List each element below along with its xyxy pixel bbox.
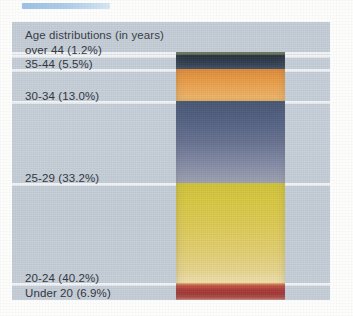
chart-panel: Age distributions (in years) [12, 22, 330, 300]
category-label-25-29: 25-29 (33.2%) [25, 172, 99, 184]
category-label-35-44: 35-44 (5.5%) [25, 58, 93, 70]
bar-segment-20-24[interactable] [176, 183, 285, 283]
bar-segment-20-24-fill [176, 183, 285, 283]
bar-segment-35-44[interactable] [176, 55, 285, 69]
category-label-over-44: over 44 (1.2%) [25, 44, 102, 56]
bar-segment-30-34[interactable] [176, 69, 285, 101]
category-label-under-20: Under 20 (6.9%) [25, 287, 111, 299]
chart-title: Age distributions (in years) [25, 29, 164, 41]
category-label-20-24: 20-24 (40.2%) [25, 272, 99, 284]
scanned-page: Age distributions (in years) [0, 0, 353, 316]
bar-segment-35-44-fill [176, 55, 285, 69]
bar-segment-25-29-fill [176, 101, 285, 183]
bar-segment-25-29[interactable] [176, 101, 285, 183]
accent-rule [22, 3, 110, 9]
stacked-bar [176, 52, 285, 300]
bar-segment-30-34-fill [176, 69, 285, 101]
bar-segment-under-20[interactable] [176, 283, 285, 300]
bar-segment-under-20-fill [176, 283, 285, 300]
category-label-30-34: 30-34 (13.0%) [25, 90, 99, 102]
